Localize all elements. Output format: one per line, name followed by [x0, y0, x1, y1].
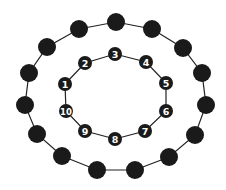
outer-ring-node [126, 161, 144, 179]
node-label: 1 [62, 79, 69, 90]
outer-ring-node [160, 148, 178, 166]
outer-ring-node [174, 39, 192, 57]
node-circle [28, 125, 46, 143]
node-label: 5 [163, 78, 170, 89]
outer-ring-node [53, 147, 71, 165]
inner-ring-node: 1 [58, 77, 72, 91]
outer-ring-node [197, 96, 215, 114]
node-label: 7 [142, 126, 149, 137]
node-circle [197, 96, 215, 114]
node-label: 4 [143, 57, 150, 68]
outer-ring-node [28, 125, 46, 143]
outer-ring-nodes [16, 13, 215, 179]
node-circle [160, 148, 178, 166]
outer-ring-node [16, 96, 34, 114]
outer-ring-node [88, 161, 106, 179]
inner-ring-node: 10 [59, 104, 73, 118]
node-label: 6 [163, 106, 170, 117]
outer-ring-node [38, 38, 56, 56]
node-label: 8 [112, 134, 119, 145]
inner-ring-node: 7 [138, 124, 152, 138]
inner-ring-node: 5 [159, 76, 173, 90]
node-label: 2 [82, 58, 89, 69]
outer-ring-node [107, 13, 125, 31]
node-circle [186, 126, 204, 144]
node-circle [20, 64, 38, 82]
outer-ring-node [70, 20, 88, 38]
node-circle [38, 38, 56, 56]
node-circle [143, 20, 161, 38]
concentric-rings-diagram: 12345678910 [0, 0, 226, 190]
node-label: 9 [82, 126, 89, 137]
outer-ring-node [20, 64, 38, 82]
node-circle [88, 161, 106, 179]
outer-ring-node [186, 126, 204, 144]
inner-ring-node: 2 [78, 56, 92, 70]
inner-ring-node: 3 [108, 47, 122, 61]
node-circle [193, 64, 211, 82]
node-circle [174, 39, 192, 57]
inner-ring-node: 6 [159, 104, 173, 118]
node-circle [53, 147, 71, 165]
outer-ring-node [143, 20, 161, 38]
inner-ring-nodes: 12345678910 [58, 47, 173, 146]
node-label: 10 [60, 107, 72, 117]
inner-ring-node: 9 [78, 124, 92, 138]
inner-ring-node: 8 [108, 132, 122, 146]
node-circle [126, 161, 144, 179]
outer-ring-node [193, 64, 211, 82]
node-circle [107, 13, 125, 31]
node-circle [16, 96, 34, 114]
inner-ring-node: 4 [139, 55, 153, 69]
node-label: 3 [112, 49, 119, 60]
node-circle [70, 20, 88, 38]
